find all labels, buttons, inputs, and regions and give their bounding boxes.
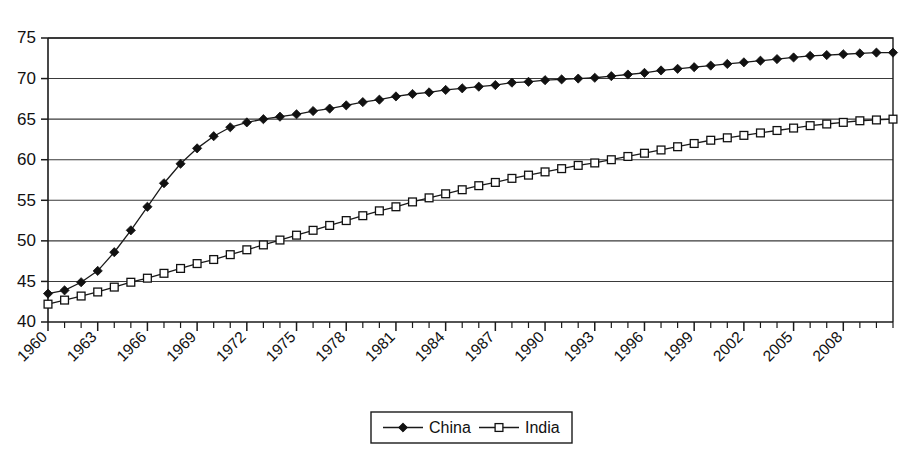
data-point-china-1961 <box>60 286 69 295</box>
x-tick-label-1987: 1987 <box>461 328 497 364</box>
data-point-india-2010 <box>873 116 881 124</box>
y-tick-label-40: 40 <box>17 312 36 331</box>
data-point-china-1999 <box>690 63 699 72</box>
series-line-india <box>48 119 893 304</box>
line-chart: 4045505560657075 19601963196619691972197… <box>0 0 917 468</box>
data-point-india-1990 <box>541 168 549 176</box>
x-tick-label-2005: 2005 <box>759 328 795 364</box>
data-point-china-1981 <box>391 92 400 101</box>
y-tick-label-70: 70 <box>17 69 36 88</box>
x-tick-label-2002: 2002 <box>710 328 746 364</box>
data-point-india-2009 <box>856 117 864 125</box>
data-point-india-1997 <box>657 146 665 154</box>
data-point-china-1994 <box>607 72 616 81</box>
data-point-india-1992 <box>574 161 582 169</box>
data-point-china-1988 <box>507 78 516 87</box>
data-point-india-1960 <box>44 300 52 308</box>
y-tick-label-55: 55 <box>17 191 36 210</box>
data-point-china-2011 <box>888 48 897 57</box>
data-point-china-1992 <box>574 74 583 83</box>
data-point-china-1966 <box>143 202 152 211</box>
data-point-china-1960 <box>43 289 52 298</box>
data-point-india-1983 <box>425 194 433 202</box>
data-point-china-1984 <box>441 85 450 94</box>
data-point-china-1976 <box>308 106 317 115</box>
data-point-india-1973 <box>259 241 267 249</box>
data-point-india-1962 <box>77 292 85 300</box>
data-point-india-2006 <box>806 122 814 130</box>
y-tick-label-65: 65 <box>17 110 36 129</box>
series-india <box>44 115 897 308</box>
data-point-india-1993 <box>591 159 599 167</box>
data-point-india-2005 <box>790 124 798 132</box>
data-point-india-1963 <box>94 288 102 296</box>
data-point-china-2010 <box>872 48 881 57</box>
data-point-china-1971 <box>226 123 235 132</box>
data-point-india-1998 <box>674 143 682 151</box>
data-point-india-1988 <box>508 174 516 182</box>
data-point-china-1982 <box>408 89 417 98</box>
x-axis: 1960196319661969197219751978198119841987… <box>14 322 893 365</box>
data-point-india-2008 <box>839 118 847 126</box>
y-tick-label-75: 75 <box>17 28 36 47</box>
data-point-china-2004 <box>772 54 781 63</box>
legend-marker-india <box>495 424 503 432</box>
data-point-india-2003 <box>757 129 765 137</box>
data-point-india-1995 <box>624 153 632 161</box>
data-point-china-1990 <box>540 76 549 85</box>
x-tick-label-1975: 1975 <box>262 328 298 364</box>
y-tick-label-50: 50 <box>17 231 36 250</box>
data-point-china-1974 <box>275 112 284 121</box>
data-point-india-1975 <box>293 231 301 239</box>
data-point-china-1985 <box>458 84 467 93</box>
x-tick-label-1981: 1981 <box>362 328 398 364</box>
data-point-china-1978 <box>342 101 351 110</box>
data-point-india-1989 <box>525 171 533 179</box>
x-tick-label-2008: 2008 <box>809 328 845 364</box>
data-point-india-1994 <box>607 156 615 164</box>
data-point-india-2000 <box>707 136 715 144</box>
data-point-india-1969 <box>193 260 201 268</box>
data-point-china-2005 <box>789 53 798 62</box>
x-tick-label-1978: 1978 <box>312 328 348 364</box>
data-point-china-2007 <box>822 50 831 59</box>
data-point-india-1967 <box>160 269 168 277</box>
chart-container: 4045505560657075 19601963196619691972197… <box>0 0 917 468</box>
data-point-china-2002 <box>739 58 748 67</box>
data-point-china-2003 <box>756 56 765 65</box>
legend-label-china: China <box>429 419 471 436</box>
plot-area-border <box>48 38 893 322</box>
data-point-china-1997 <box>656 66 665 75</box>
data-point-china-1986 <box>474 82 483 91</box>
data-point-india-1978 <box>342 217 350 225</box>
data-point-india-1965 <box>127 278 135 286</box>
data-point-india-1985 <box>458 186 466 194</box>
data-point-india-1971 <box>226 251 234 259</box>
x-tick-label-1990: 1990 <box>511 328 548 365</box>
data-point-india-1966 <box>144 274 152 282</box>
data-point-china-1975 <box>292 110 301 119</box>
data-point-china-1996 <box>640 68 649 77</box>
data-point-india-2004 <box>773 127 781 135</box>
chart-legend: ChinaIndia <box>371 412 572 443</box>
data-point-india-2002 <box>740 131 748 139</box>
data-point-china-2001 <box>723 59 732 68</box>
data-point-india-1999 <box>690 140 698 148</box>
data-point-china-1983 <box>424 88 433 97</box>
data-point-india-1991 <box>558 165 566 173</box>
data-point-china-2000 <box>706 61 715 70</box>
data-point-china-1991 <box>557 75 566 84</box>
data-point-china-1980 <box>375 95 384 104</box>
data-point-china-2008 <box>839 50 848 59</box>
data-point-india-2001 <box>723 134 731 142</box>
data-point-india-1987 <box>491 179 499 187</box>
data-point-india-2007 <box>823 120 831 128</box>
data-point-china-1962 <box>77 278 86 287</box>
data-point-india-1986 <box>475 182 483 190</box>
y-tick-label-45: 45 <box>17 272 36 291</box>
x-tick-label-1996: 1996 <box>610 328 646 364</box>
x-tick-label-1963: 1963 <box>63 328 99 364</box>
x-tick-label-1999: 1999 <box>660 328 696 364</box>
plot-border-group <box>48 38 893 322</box>
data-point-china-1979 <box>358 98 367 107</box>
